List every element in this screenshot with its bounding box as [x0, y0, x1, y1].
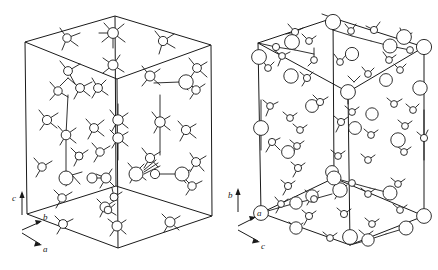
atom-small [348, 28, 355, 35]
atom-small [370, 26, 377, 33]
atom-small [278, 201, 285, 208]
atom-large [343, 230, 358, 245]
atom-small [294, 164, 301, 171]
left-axis-label-b: b [43, 212, 48, 222]
atom-small [150, 169, 159, 178]
left-axis-label-a: a [43, 244, 48, 254]
right-axis-label-b: b [228, 190, 233, 200]
left-structure-panel: c b a [12, 16, 212, 254]
atom-small [76, 84, 85, 93]
atom-small [110, 193, 118, 201]
atom-medium [155, 117, 165, 127]
atom-small [327, 235, 334, 242]
atom-small [401, 149, 408, 156]
atom-medium [108, 60, 118, 70]
atom-medium [101, 173, 111, 183]
atom-small [90, 124, 99, 133]
atom-medium [366, 108, 378, 120]
right-axis-label-c: c [261, 241, 265, 251]
atom-medium [290, 197, 302, 209]
atom-large [59, 171, 73, 185]
atom-large [285, 35, 300, 50]
atom-medium [362, 234, 374, 246]
atom-small [145, 153, 154, 162]
atom-small [369, 221, 376, 228]
atom-small [337, 59, 344, 66]
atom-large [254, 121, 269, 136]
left-cell-bottom-face [27, 186, 212, 248]
right-structure-panel: b a c [228, 14, 432, 251]
atom-large [399, 221, 413, 235]
left-axis-label-c: c [12, 193, 16, 203]
right-axis-label-a: a [257, 208, 262, 218]
atom-large [175, 167, 189, 181]
atom-small [75, 152, 83, 160]
atom-large [416, 39, 431, 54]
atom-medium [145, 71, 155, 81]
atom-small [193, 64, 202, 73]
atom-small [368, 132, 375, 139]
atom-small [158, 36, 167, 45]
atom-small [63, 34, 71, 42]
atom-small [311, 57, 318, 64]
figure-canvas: c b a [0, 0, 438, 270]
atom-small [54, 87, 62, 95]
left-atom-group [38, 28, 202, 231]
atom-large [252, 50, 267, 65]
atom-small [61, 130, 71, 140]
atom-large [397, 30, 412, 45]
atom-small [272, 43, 279, 50]
atom-large [129, 167, 143, 181]
atom-small [349, 109, 356, 116]
atom-small [265, 65, 272, 72]
atom-small [395, 181, 402, 188]
left-axis-a-line [22, 233, 40, 244]
atom-small [349, 180, 356, 187]
atom-small [337, 118, 344, 125]
atom-small [410, 107, 417, 114]
atom-large [383, 39, 397, 53]
atom-small [365, 157, 372, 164]
atom-small [104, 206, 112, 214]
crystal-structure-figure: c b a [0, 0, 438, 270]
atom-small [391, 101, 398, 108]
left-axis-c-arrow [19, 191, 24, 198]
atom-large [391, 133, 405, 147]
atom-small [294, 143, 301, 150]
atom-small [305, 212, 312, 219]
atom-medium [345, 47, 358, 60]
atom-large [341, 85, 356, 100]
atom-small [365, 71, 372, 78]
atom-large [327, 171, 341, 185]
atom-small [420, 134, 427, 141]
atom-large [284, 69, 298, 83]
atom-small [96, 148, 104, 156]
atom-medium [380, 74, 393, 87]
atom-medium [113, 133, 123, 143]
atom-small [94, 84, 103, 93]
atom-small [58, 194, 66, 202]
atom-small [279, 53, 286, 60]
atom-small [192, 86, 200, 94]
right-axis-b-arrow [235, 188, 240, 195]
left-cell-top-face [25, 16, 211, 79]
atom-small [335, 153, 342, 160]
atom-small [402, 123, 409, 130]
atom-large [383, 186, 397, 200]
atom-small [268, 138, 275, 145]
atom-small [287, 115, 294, 122]
atom-small [316, 98, 323, 105]
atom-medium [349, 122, 362, 135]
atom-medium [290, 222, 302, 234]
atom-small [297, 127, 304, 134]
right-axis-c-arrow [252, 239, 260, 244]
atom-small [397, 67, 404, 74]
atom-small [284, 182, 291, 189]
atom-small [311, 196, 318, 203]
atom-small [38, 163, 46, 171]
atom-medium [108, 28, 119, 39]
atom-small [386, 57, 393, 64]
atom-medium [87, 173, 97, 183]
atom-large [179, 75, 193, 89]
atom-large [413, 81, 427, 95]
